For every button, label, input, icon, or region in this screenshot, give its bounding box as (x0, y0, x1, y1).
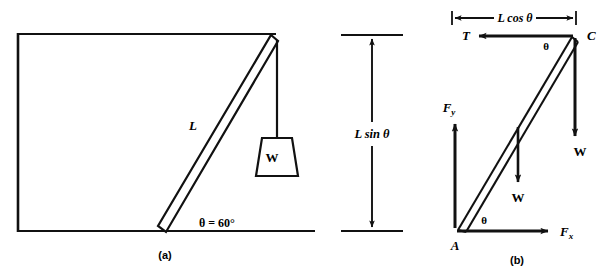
panel-a-caption: (a) (158, 249, 172, 261)
height-dimension: L sin θ (341, 35, 403, 231)
panel-b-caption: (b) (510, 254, 524, 266)
figure-canvas: L W θ = 60° (a) L sin θ L cos θ (0, 0, 615, 272)
beam-shape (158, 35, 278, 232)
beam-length-label: L (188, 118, 197, 133)
angle-label-a: θ = 60° (199, 216, 235, 230)
force-y-label: Fy (442, 100, 457, 117)
panel-a: L W θ = 60° (a) (17, 33, 315, 261)
point-a-label: A (450, 238, 460, 253)
weight-label-at-c: W (574, 144, 587, 159)
beam-weight-label: W (512, 190, 525, 205)
tension-label: T (462, 28, 471, 43)
panel-b: L cos θ T C θ W W Fy Fx (442, 11, 596, 266)
height-dimension-label: L sin θ (353, 127, 390, 141)
point-c-label: C (587, 28, 596, 43)
force-x-label: Fx (559, 224, 574, 241)
physics-figure: L W θ = 60° (a) L sin θ L cos θ (0, 0, 615, 272)
hanging-weight-label: W (266, 150, 279, 165)
span-dimension-label: L cos θ (496, 11, 533, 25)
angle-label-bottom: θ (481, 214, 487, 226)
angle-label-top: θ (543, 40, 549, 52)
